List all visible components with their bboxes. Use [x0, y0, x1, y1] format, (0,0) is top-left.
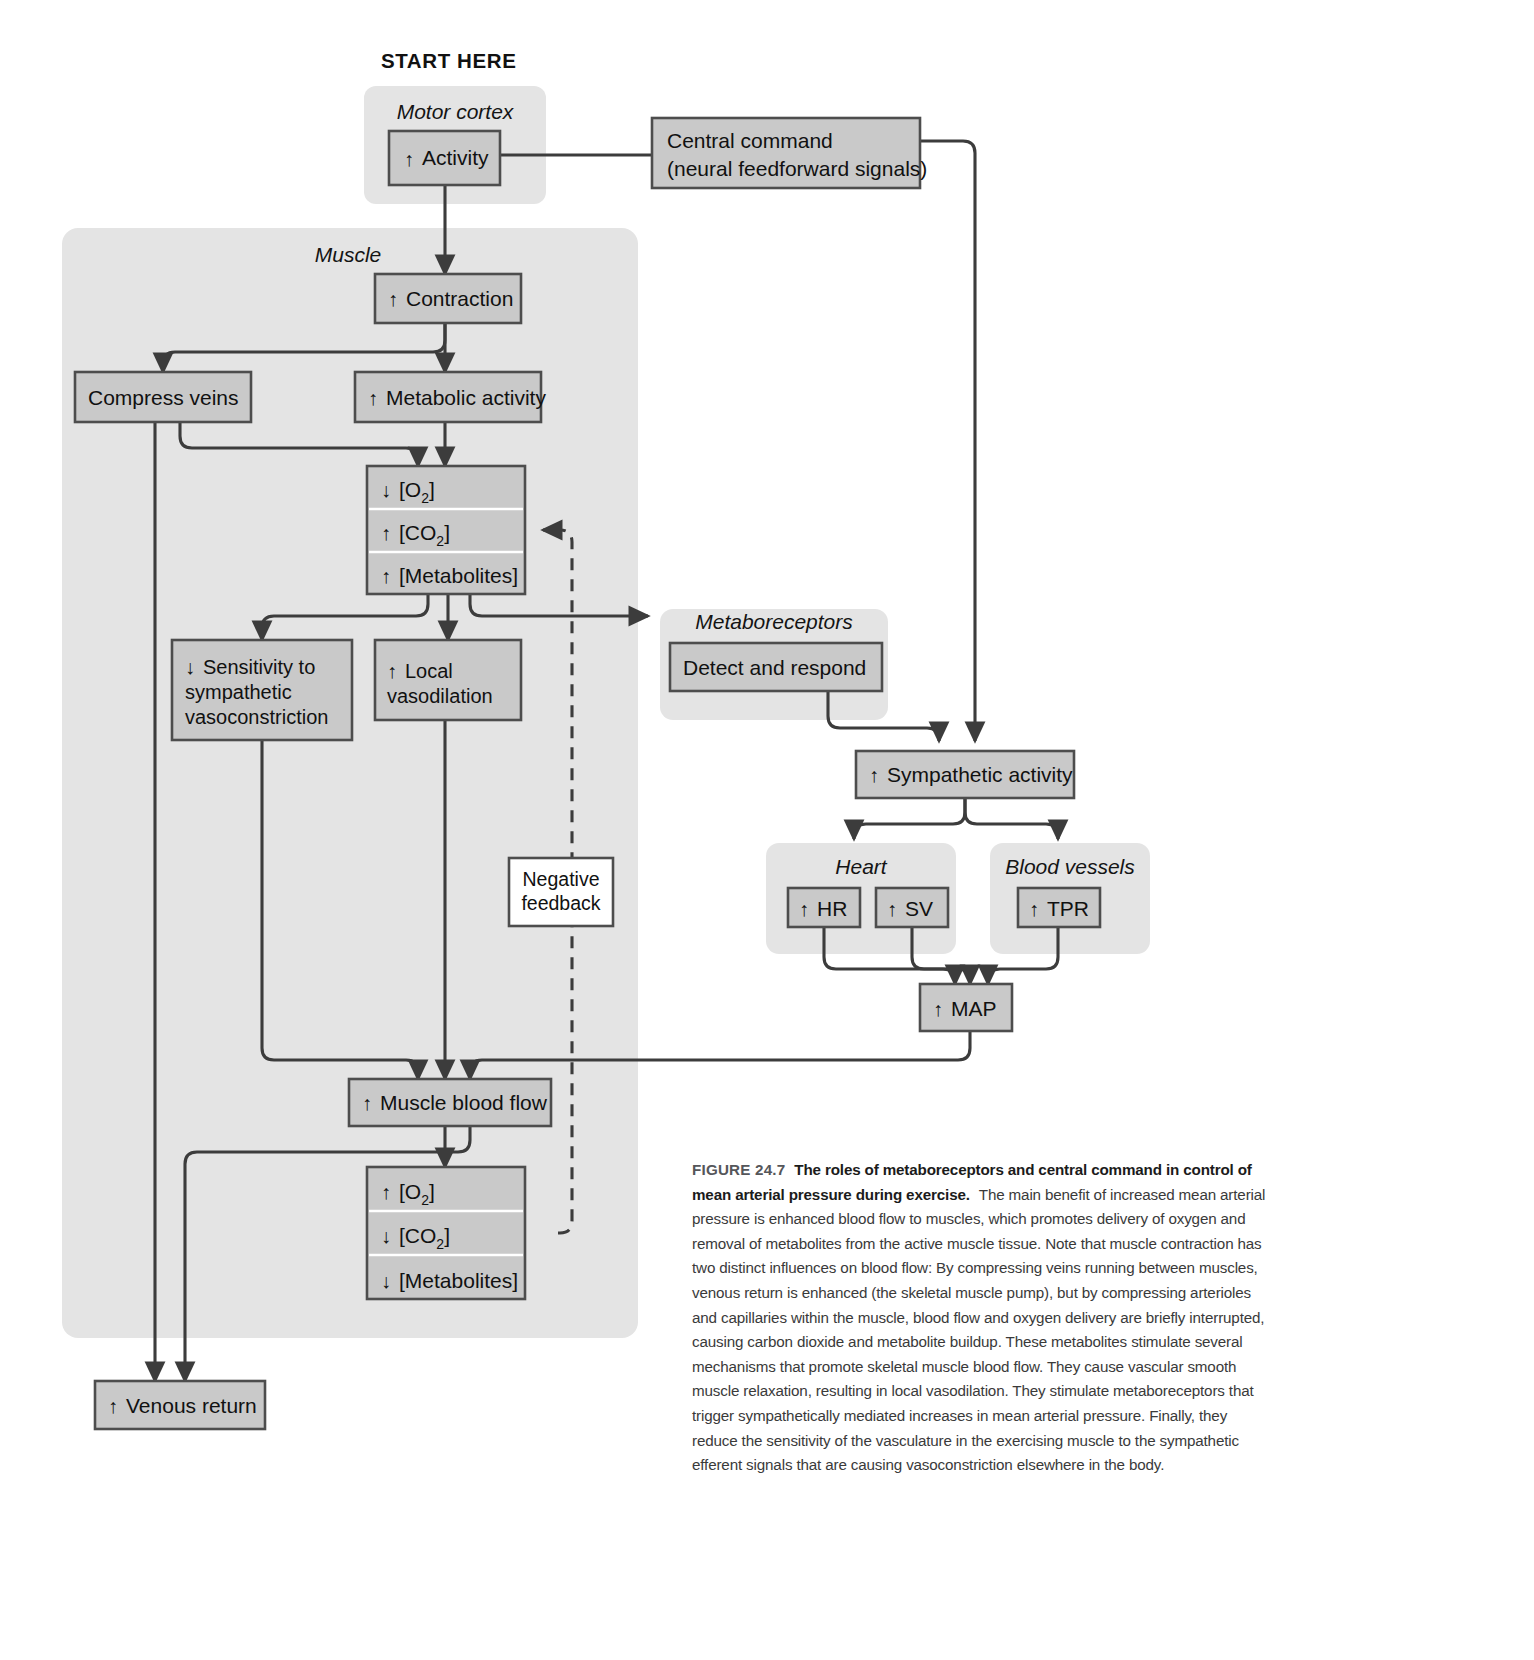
box-central-command[interactable]: Central command (neural feedforward sign…	[652, 118, 927, 188]
group-title-blood-vessels: Blood vessels	[1005, 855, 1135, 878]
box-central-command-line2: (neural feedforward signals)	[667, 157, 927, 180]
box-detect-and-respond[interactable]: Detect and respond	[670, 643, 882, 691]
arrow-up-glyph: ↑	[887, 898, 897, 920]
box-venous-return[interactable]: ↑ Venous return	[95, 1381, 265, 1429]
group-title-muscle: Muscle	[315, 243, 382, 266]
group-title-motor-cortex: Motor cortex	[397, 100, 515, 123]
arrow-down-glyph: ↓	[381, 1270, 391, 1292]
box-muscle-blood-flow[interactable]: ↑ Muscle blood flow	[349, 1079, 551, 1126]
arrow-up-glyph: ↑	[1029, 898, 1039, 920]
box-muscle-chemistry-restored[interactable]: ↑ [O2] ↓ [CO2] ↓ [Metabolites]	[367, 1167, 525, 1299]
box-negative-feedback-line1: Negative	[523, 868, 600, 890]
box-hr-label: HR	[817, 897, 847, 920]
figure-number: FIGURE 24.7	[692, 1161, 785, 1178]
box-negative-feedback[interactable]: Negative feedback	[509, 858, 613, 926]
box-compress-veins-label: Compress veins	[88, 386, 239, 409]
box-contraction-label: Contraction	[406, 287, 513, 310]
box-local-vasodilation-line2: vasodilation	[387, 685, 493, 707]
arrow-up-glyph: ↑	[381, 1181, 391, 1203]
box-map-label: MAP	[951, 997, 997, 1020]
arrow-up-glyph: ↑	[933, 998, 943, 1020]
edge-sympathetic-to-heart	[854, 798, 965, 839]
box-sv[interactable]: ↑ SV	[876, 888, 948, 927]
box-negative-feedback-line2: feedback	[521, 892, 600, 914]
box-sensitivity-to-sympathetic-vasoconstriction[interactable]: ↓ Sensitivity to sympathetic vasoconstri…	[172, 640, 352, 740]
box-local-vasodilation-line1: Local	[405, 660, 453, 682]
chem-row-label: [Metabolites]	[399, 564, 518, 587]
box-sv-label: SV	[905, 897, 933, 920]
arrow-up-glyph: ↑	[388, 288, 398, 310]
box-muscle-blood-flow-label: Muscle blood flow	[380, 1091, 548, 1114]
box-hr[interactable]: ↑ HR	[788, 888, 860, 927]
arrow-up-glyph: ↑	[404, 148, 414, 170]
figure-caption-body: The main benefit of increased mean arter…	[692, 1186, 1265, 1474]
group-title-heart: Heart	[835, 855, 888, 878]
box-central-command-line1: Central command	[667, 129, 833, 152]
arrow-down-glyph: ↓	[381, 1225, 391, 1247]
box-compress-veins[interactable]: Compress veins	[75, 372, 251, 422]
arrow-up-glyph: ↑	[362, 1092, 372, 1114]
figure-24-7: START HERE Motor cortex Muscle Metaborec…	[0, 0, 1534, 1660]
arrow-down-glyph: ↓	[185, 656, 195, 678]
arrow-down-glyph: ↓	[381, 479, 391, 501]
arrow-up-glyph: ↑	[387, 660, 397, 682]
figure-caption: FIGURE 24.7The roles of metaboreceptors …	[692, 1158, 1268, 1478]
box-metabolic-activity-label: Metabolic activity	[386, 386, 546, 409]
chem-row-metabolites-decrease: ↓ [Metabolites]	[381, 1269, 518, 1292]
arrow-up-glyph: ↑	[799, 898, 809, 920]
box-map[interactable]: ↑ MAP	[920, 984, 1012, 1031]
box-sympathetic-activity-label: Sympathetic activity	[887, 763, 1073, 786]
box-tpr[interactable]: ↑ TPR	[1018, 888, 1100, 927]
box-local-vasodilation[interactable]: ↑ Local vasodilation	[375, 640, 521, 720]
box-detect-and-respond-label: Detect and respond	[683, 656, 866, 679]
group-title-metaboreceptors: Metaboreceptors	[695, 610, 853, 633]
box-sensitivity-line1: Sensitivity to	[203, 656, 315, 678]
box-activity-label: Activity	[422, 146, 489, 169]
box-contraction[interactable]: ↑ Contraction	[375, 274, 521, 323]
arrow-up-glyph: ↑	[381, 522, 391, 544]
chem-row-metabolites-increase: ↑ [Metabolites]	[381, 564, 518, 587]
edge-sympathetic-to-blood-vessels	[965, 798, 1058, 839]
box-sensitivity-line2: sympathetic	[185, 681, 292, 703]
box-muscle-chemistry-increase[interactable]: ↓ [O2] ↑ [CO2] ↑ [Metabolites]	[367, 466, 525, 594]
arrow-up-glyph: ↑	[381, 565, 391, 587]
box-tpr-label: TPR	[1047, 897, 1089, 920]
box-sensitivity-line3: vasoconstriction	[185, 706, 328, 728]
chem-row-label: [Metabolites]	[399, 1269, 518, 1292]
arrow-up-glyph: ↑	[108, 1395, 118, 1417]
box-venous-return-label: Venous return	[126, 1394, 257, 1417]
start-here-label: START HERE	[381, 49, 516, 72]
arrow-up-glyph: ↑	[368, 387, 378, 409]
edge-central-command-to-sympathetic	[920, 141, 975, 741]
box-metabolic-activity[interactable]: ↑ Metabolic activity	[355, 372, 546, 422]
box-activity[interactable]: ↑ Activity	[389, 131, 500, 185]
arrow-up-glyph: ↑	[869, 764, 879, 786]
box-sympathetic-activity[interactable]: ↑ Sympathetic activity	[856, 751, 1074, 798]
